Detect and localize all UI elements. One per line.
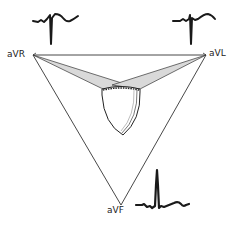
avr-waveform	[33, 14, 78, 44]
projection-wedges	[33, 55, 206, 89]
wedge-avl	[112, 55, 206, 89]
wedge-avr	[33, 55, 128, 89]
einthoven-triangle-diagram	[0, 0, 238, 226]
edge-avl-avf	[121, 55, 206, 205]
lead-label-avf: aVF	[107, 206, 124, 215]
diagram-stage: — — — — — — — — — —	[0, 0, 238, 226]
heart-icon	[102, 87, 140, 136]
avf-waveform	[136, 170, 189, 208]
avl-waveform	[173, 14, 215, 44]
lead-label-avl: aVL	[209, 49, 226, 58]
lead-label-avr: aVR	[7, 50, 25, 59]
edge-avr-avf	[33, 55, 121, 205]
